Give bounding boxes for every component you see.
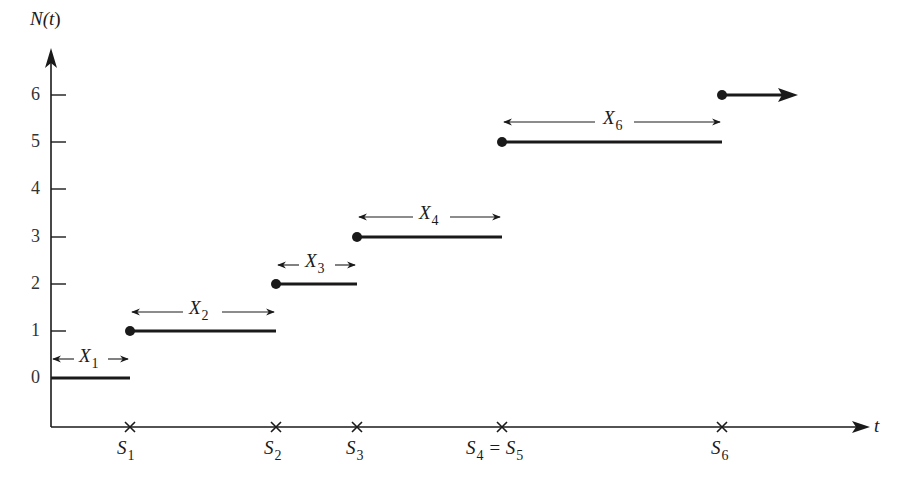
x-sub: 2 xyxy=(202,308,209,323)
x-axis-label: t xyxy=(874,415,879,437)
event-label-s4-s5: S4 = S5 xyxy=(466,437,523,459)
event-eq-letter: = S xyxy=(488,437,515,458)
y-axis-label: N(t) xyxy=(30,8,61,30)
event-letter: S xyxy=(117,437,127,458)
x-sub: 1 xyxy=(92,356,99,371)
event-sub: 1 xyxy=(128,448,135,463)
interarrival-label-x3: X3 xyxy=(305,250,325,272)
interarrival-arrows xyxy=(53,122,720,359)
event-label-s2: S2 xyxy=(264,437,282,459)
event-sub: 4 xyxy=(477,448,484,463)
interarrival-label-x1: X1 xyxy=(79,345,99,367)
y-axis xyxy=(45,48,66,427)
y-tick-2: 2 xyxy=(20,273,40,294)
y-label-close: ) xyxy=(54,8,60,29)
event-label-s1: S1 xyxy=(117,437,135,459)
y-tick-0: 0 xyxy=(20,367,40,388)
event-sub: 2 xyxy=(275,448,282,463)
event-sub: 6 xyxy=(722,448,729,463)
interarrival-label-x6: X6 xyxy=(603,107,623,129)
y-tick-4: 4 xyxy=(20,178,40,199)
interarrival-label-x2: X2 xyxy=(189,297,209,319)
y-tick-6: 6 xyxy=(20,84,40,105)
x-axis xyxy=(51,421,870,433)
y-tick-3: 3 xyxy=(20,226,40,247)
y-ticks xyxy=(51,95,66,331)
event-label-s3: S3 xyxy=(346,437,364,459)
event-eq-sub: 5 xyxy=(516,448,523,463)
step-segments xyxy=(51,95,785,378)
x-sub: 6 xyxy=(616,118,623,133)
event-label-s6: S6 xyxy=(711,437,729,459)
x-letter: X xyxy=(419,202,431,223)
event-letter: S xyxy=(346,437,356,458)
event-letter: S xyxy=(264,437,274,458)
x-sub: 4 xyxy=(432,213,439,228)
event-sub: 3 xyxy=(357,448,364,463)
x-letter: X xyxy=(305,250,317,271)
x-sub: 3 xyxy=(318,261,325,276)
x-letter: X xyxy=(189,297,201,318)
y-tick-1: 1 xyxy=(20,320,40,341)
y-tick-5: 5 xyxy=(20,131,40,152)
y-label-func: N( xyxy=(30,8,49,29)
x-letter: X xyxy=(79,345,91,366)
event-letter: S xyxy=(466,437,476,458)
interarrival-label-x4: X4 xyxy=(419,202,439,224)
counting-process-chart xyxy=(0,0,907,491)
event-letter: S xyxy=(711,437,721,458)
x-letter: X xyxy=(603,107,615,128)
